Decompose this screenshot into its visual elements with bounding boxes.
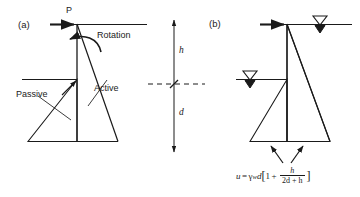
equation-leader-arrow-right <box>291 146 303 163</box>
passive-label: Passive <box>16 90 48 99</box>
equation-fraction-denominator: 2d + h <box>280 175 305 185</box>
panel-b-group <box>236 16 352 163</box>
panel-b-tag: (b) <box>209 19 221 29</box>
dimension-label-h: h <box>179 46 184 56</box>
equation-bracket-close: ] <box>307 169 311 184</box>
equation-plus: + <box>270 171 278 181</box>
water-pressure-triangle-left <box>250 80 287 142</box>
equation-fraction-numerator: h <box>288 167 296 175</box>
equation-equals: = <box>241 171 249 181</box>
panel-a-group <box>22 24 147 142</box>
panel-a-tag: (a) <box>18 20 30 30</box>
water-pressure-triangle-right <box>287 25 330 142</box>
passive-direction-arrow <box>62 81 76 95</box>
equation-fraction: h 2d + h <box>280 167 305 185</box>
dimension-group <box>148 20 205 152</box>
pore-pressure-equation: u = γwd [ 1 + h 2d + h ] <box>236 167 311 185</box>
equation-leader-arrow-left <box>271 146 283 163</box>
rotation-label: Rotation <box>97 31 131 40</box>
force-p-label: P <box>66 6 72 15</box>
dimension-label-d: d <box>179 108 184 118</box>
active-label: Active <box>94 84 119 93</box>
passive-leader-line <box>38 96 71 120</box>
